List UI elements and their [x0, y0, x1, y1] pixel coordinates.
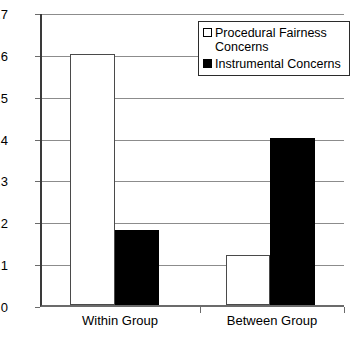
bar-within-group-instrumental [115, 230, 159, 305]
x-axis-tick [200, 307, 201, 313]
y-tick-label: 0.3 [0, 175, 8, 188]
y-tick-label: 0.7 [0, 8, 8, 21]
bar-between-group-instrumental [270, 138, 315, 305]
x-axis-label-within-group: Within Group [82, 314, 158, 327]
bar-within-group-procedural-fairness [70, 54, 115, 305]
y-tick-label: 0.1 [0, 259, 8, 272]
y-tick-label: 0.5 [0, 91, 8, 104]
bar-chart: 0.7 0.6 0.5 0.4 0.3 0.2 0.1 0 [0, 0, 355, 339]
filled-square-icon [203, 59, 212, 68]
legend-label: Instrumental Concerns [215, 57, 341, 71]
gridline [42, 14, 344, 15]
open-square-icon [203, 28, 212, 37]
y-tick-mark [35, 307, 40, 308]
y-tick-label: 0.4 [0, 133, 8, 146]
y-tick-label: 0.2 [0, 217, 8, 230]
legend-item-instrumental: Instrumental Concerns [203, 57, 346, 71]
legend-label: Procedural Fairness Concerns [215, 26, 346, 54]
legend-item-procedural-fairness: Procedural Fairness Concerns [203, 26, 346, 54]
chart-legend: Procedural Fairness Concerns Instrumenta… [198, 21, 350, 76]
y-tick-label: 0.6 [0, 49, 8, 62]
y-tick-label: 0 [0, 301, 8, 314]
x-axis-label-between-group: Between Group [227, 314, 317, 327]
bar-between-group-procedural-fairness [226, 255, 270, 305]
x-axis-tick [344, 307, 345, 313]
